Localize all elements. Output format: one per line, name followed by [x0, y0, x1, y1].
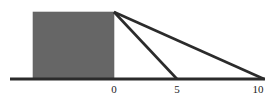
diagonal-to-ten-shape [114, 12, 264, 79]
gray-bar-shape [33, 12, 114, 79]
tick-label-5: 5 [174, 83, 180, 95]
geometry-figure: 0 5 10 [0, 0, 276, 105]
tick-label-10: 10 [253, 83, 265, 95]
diagonal-to-five-shape [114, 12, 177, 79]
figure-canvas: 0 5 10 [0, 0, 276, 105]
tick-label-0: 0 [111, 83, 117, 95]
